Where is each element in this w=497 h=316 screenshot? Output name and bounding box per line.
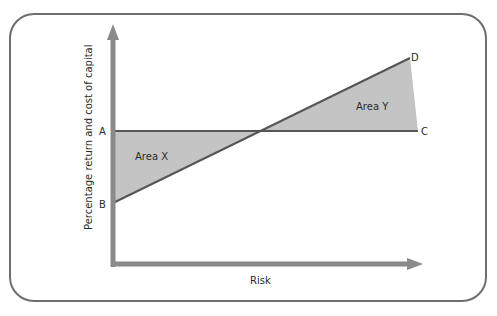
point-label-a: A [99,126,106,137]
point-label-c: C [421,126,428,137]
y-axis-label: Percentage return and cost of capital [83,44,94,230]
point-label-d: D [411,52,419,63]
risk-return-diagram: A B C D Area X Area Y Percentage return … [0,0,497,316]
x-axis-label: Risk [250,275,271,286]
point-label-b: B [99,199,106,210]
area-y-label: Area Y [356,101,389,112]
area-x-label: Area X [135,151,168,162]
